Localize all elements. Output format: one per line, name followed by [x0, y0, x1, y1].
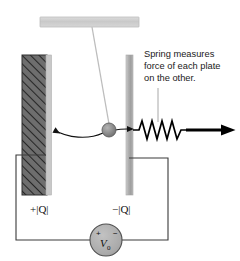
spring — [133, 121, 188, 139]
pendulum-string — [92, 27, 109, 124]
left-plate-charge-label: +|Q| — [30, 203, 49, 215]
negative-plate — [126, 55, 133, 195]
annotation-line-2: force of each plate — [144, 61, 221, 71]
source-minus-sign: − — [113, 229, 118, 238]
voltage-source: + − V 0 — [90, 224, 122, 256]
charged-ball — [102, 123, 116, 137]
annotation-text: Spring measures force of each plate on t… — [144, 49, 221, 83]
figure-canvas: + − V 0 +|Q| −|Q| — [0, 0, 240, 261]
annotation-line-1: Spring measures — [144, 49, 215, 59]
positive-plate — [22, 55, 52, 195]
source-subscript: 0 — [107, 244, 111, 252]
right-plate-charge-label: −|Q| — [112, 203, 131, 215]
annotation-line-3: on the other. — [144, 73, 196, 83]
capacitor-force-diagram: + − V 0 +|Q| −|Q| — [0, 0, 240, 261]
support-bar — [40, 17, 139, 27]
